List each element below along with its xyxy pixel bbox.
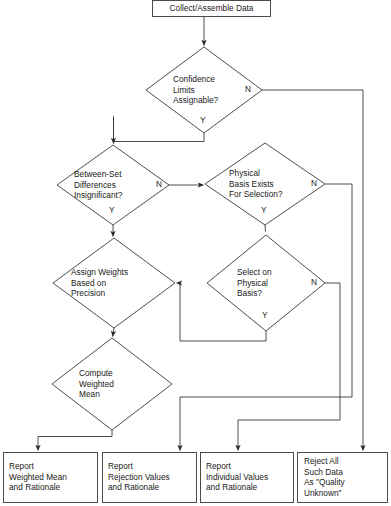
- hit-report-rejection-values[interactable]: [102, 452, 197, 503]
- hit-confidence-limits[interactable]: [146, 47, 263, 134]
- hit-report-individual-values[interactable]: [200, 452, 294, 503]
- hit-compute-weighted-mean[interactable]: [52, 338, 173, 431]
- hit-reject-all-such-data[interactable]: [297, 452, 388, 503]
- hit-physical-basis-exists[interactable]: [205, 143, 326, 226]
- hit-report-weighted-mean[interactable]: [3, 452, 98, 503]
- hit-collect-assemble-data[interactable]: [152, 0, 271, 17]
- hit-assign-weights[interactable]: [53, 238, 176, 329]
- flowchart-canvas: Collect/Assemble Data Confidence Limits …: [0, 0, 391, 506]
- hit-between-set-differences[interactable]: [57, 145, 170, 226]
- hit-select-on-physical-basis[interactable]: [207, 235, 326, 332]
- edge-compute-mean-to-report-weighted-mean: [38, 430, 112, 448]
